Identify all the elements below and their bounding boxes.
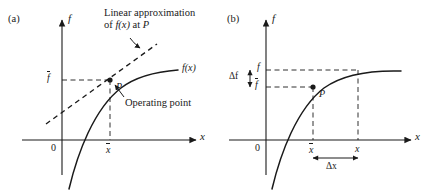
panel-a-x-tick-label: x [106,143,110,156]
panel-a-annotation-linear: Linear approximation of f(x) at P [104,7,195,31]
panel-b-point-p [310,84,315,89]
panel-a-curve-fx [69,70,178,189]
panel-b-f-bar-symbol: f [255,78,258,91]
panel-a-annotation-linear-fx: f(x) [115,19,130,30]
panel-a-annotation-operating: Operating point [125,97,191,109]
panel-b-y-axis-label: f [272,12,275,25]
panel-b-x-axis-label: x [415,130,420,143]
figure-linearization: (a) f x 0 x f f(x) P Linear approximatio… [0,0,443,194]
panel-b-x-bar-symbol: x [309,143,313,156]
panel-b: (b) f x 0 x x f f P Δf Δx [215,0,443,194]
panel-a-annotation-linear-line2-pre: of [104,19,115,30]
panel-a-annotation-linear-line1: Linear approximation [104,7,195,18]
panel-a-point-label: P [116,81,122,93]
panel-b-origin-label: 0 [255,142,260,154]
panel-a-point-p [107,77,112,82]
panel-a-callout-arrow-linear [130,38,140,48]
panel-b-y-tick-label-top: f [257,61,260,73]
panel-a-tag: (a) [8,13,20,25]
panel-b-x-tick-label: x [355,143,359,155]
panel-a-curve-label: f(x) [182,62,196,74]
panel-b-tag: (b) [227,13,239,25]
panel-a: (a) f x 0 x f f(x) P Linear approximatio… [0,0,222,194]
panel-b-point-label: P [319,88,325,100]
panel-a-annotation-linear-p: P [143,19,149,30]
panel-b-delta-f-label: Δf [229,71,238,82]
panel-a-x-bar-symbol: x [106,143,110,156]
panel-a-annotation-linear-mid: at [130,19,143,30]
panel-b-y-tick-label-bar: f [255,78,258,91]
panel-a-origin-label: 0 [51,142,56,154]
panel-a-x-axis-label: x [200,130,205,143]
panel-b-delta-x-label: Δx [326,161,337,172]
panel-b-x-tick-label-bar: x [309,143,313,156]
panel-a-y-tick-label: f [47,71,50,84]
panel-a-y-axis-label: f [68,12,71,25]
panel-a-tangent-line [46,44,157,124]
panel-a-f-bar-symbol: f [47,71,50,84]
